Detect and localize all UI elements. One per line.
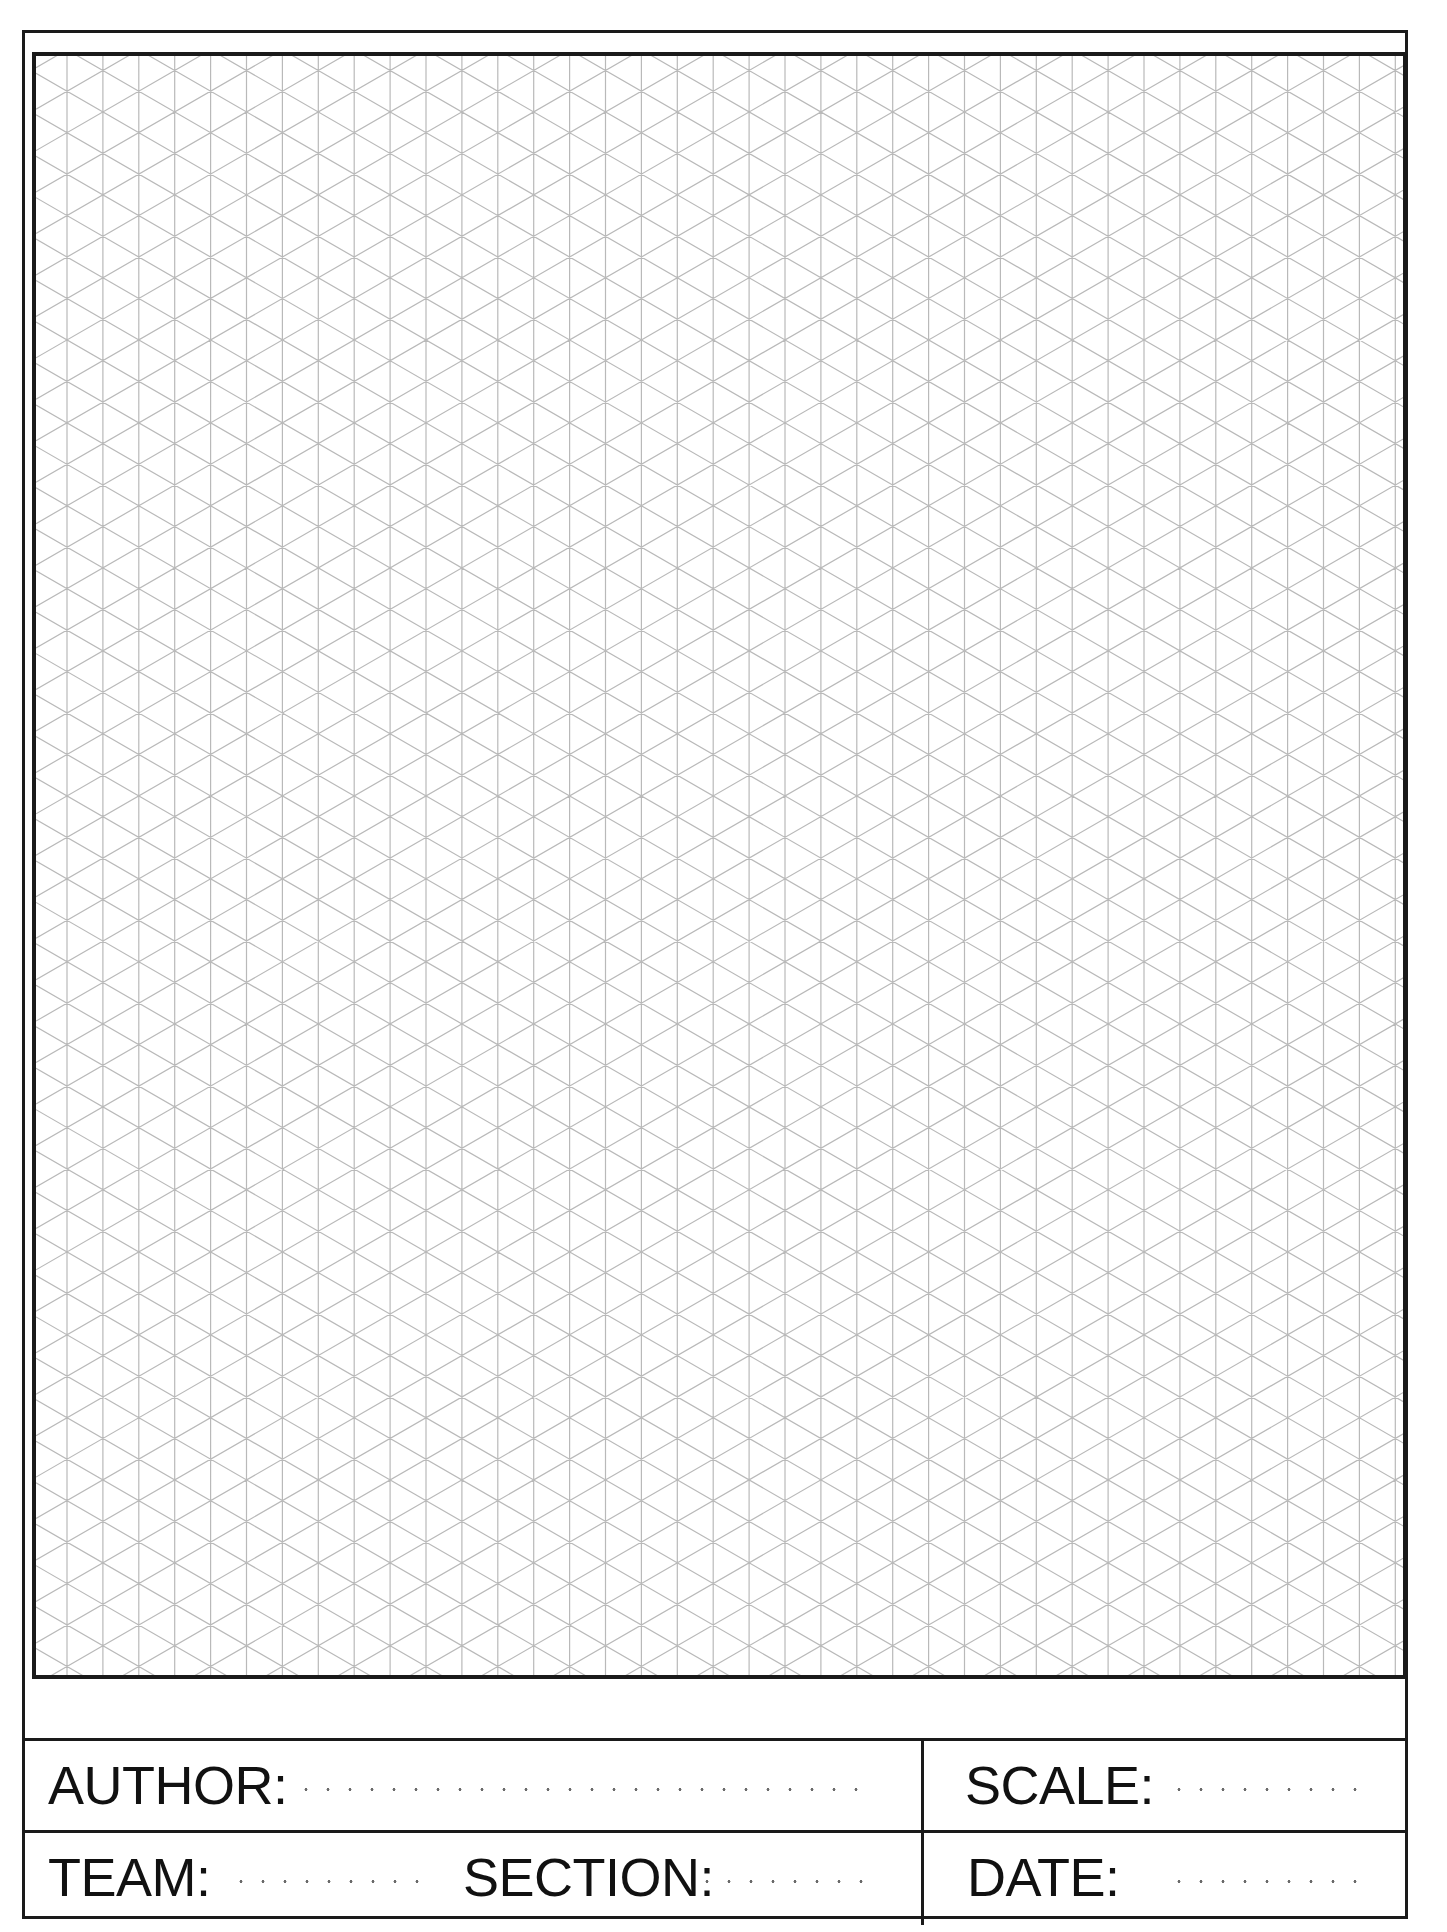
grid-lines [36, 56, 1407, 1679]
team-dotted-entry-line[interactable] [230, 1870, 428, 1896]
scale-field[interactable]: SCALE: [924, 1741, 1408, 1830]
scale-dotted-entry-line[interactable] [1168, 1778, 1366, 1804]
section-dotted-entry-line[interactable] [696, 1870, 872, 1896]
author-field[interactable]: AUTHOR: [22, 1741, 921, 1830]
author-dotted-entry-line[interactable] [295, 1778, 869, 1804]
scale-label: SCALE: [965, 1755, 1154, 1815]
team-label: TEAM: [48, 1847, 211, 1907]
title-block-row-2: TEAM: SECTION: DATE: [22, 1833, 1408, 1922]
section-label: SECTION: [463, 1847, 714, 1907]
isometric-grid-area [32, 52, 1407, 1679]
team-field[interactable]: TEAM: [22, 1833, 462, 1922]
title-block-row-1: AUTHOR: SCALE: [22, 1741, 1408, 1833]
date-dotted-entry-line[interactable] [1168, 1870, 1366, 1896]
title-block: AUTHOR: SCALE: TEAM: SECTION: DATE: [22, 1738, 1408, 1922]
author-label: AUTHOR: [48, 1755, 288, 1815]
isometric-grid [36, 56, 1407, 1679]
section-field[interactable]: SECTION: [462, 1833, 921, 1922]
title-block-vertical-divider [921, 1741, 924, 1925]
date-label: DATE: [967, 1847, 1120, 1907]
date-field[interactable]: DATE: [924, 1833, 1408, 1922]
